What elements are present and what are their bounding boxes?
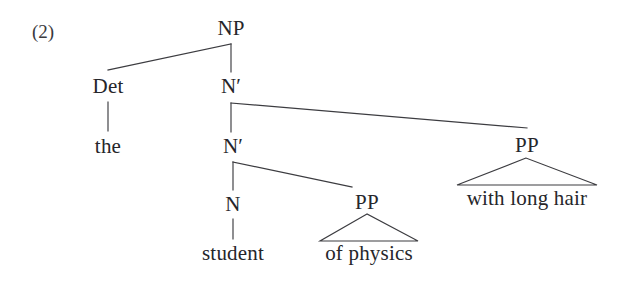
leaf-of-physics: of physics [325,243,413,264]
leaf-with-long-hair: with long hair [467,188,588,209]
tree-edge-nbar1-to-pp [231,103,527,128]
triangle-of-physics [320,214,418,241]
node-nbar-lower: N′ [223,136,243,157]
node-n: N [225,194,240,215]
node-pp-of-physics: PP [355,192,379,213]
leaf-student: student [202,243,264,264]
leaf-the: the [95,136,121,157]
node-np: NP [217,18,244,39]
tree-edge-nbar2-to-pp [233,162,352,187]
node-pp-with-long-hair: PP [515,135,539,156]
node-nbar-upper: N′ [221,76,241,97]
syntax-tree-figure: (2) NP Det N′ N′ PP N PP the student of … [0,0,636,281]
triangle-with-long-hair [457,158,597,185]
tree-edge-np-to-det [108,44,231,70]
node-det: Det [93,76,124,97]
